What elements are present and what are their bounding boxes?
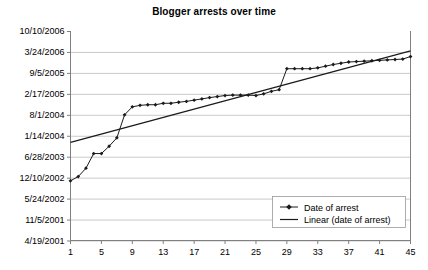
y-axis-tick-label: 10/10/2006 [19, 26, 64, 36]
data-point-marker [293, 67, 297, 71]
data-point-marker [169, 101, 173, 105]
data-point-marker [300, 67, 304, 71]
y-axis-tick-label: 2/17/2005 [24, 89, 64, 99]
data-point-marker [324, 64, 328, 68]
data-point-marker [270, 89, 274, 93]
data-point-marker [277, 88, 281, 92]
data-point-marker [409, 55, 413, 59]
x-axis-tick-label: 33 [313, 247, 323, 257]
x-axis-tick-label: 5 [99, 247, 104, 257]
series-markers-date-of-arrest [69, 55, 413, 183]
chart-container: Blogger arrests over time 10/10/20063/24… [0, 0, 428, 270]
data-point-marker [177, 100, 181, 104]
data-point-marker [215, 95, 219, 99]
data-point-marker [154, 103, 158, 107]
data-point-marker [393, 58, 397, 62]
data-point-marker [355, 60, 359, 64]
legend: Date of arrest Linear (date of arrest) [273, 197, 406, 228]
legend-label-linear-date-of-arrest: Linear (date of arrest) [304, 215, 391, 225]
y-axis-tick-label: 11/5/2001 [25, 215, 64, 225]
chart-plot-area: 10/10/20063/24/20069/5/20052/17/20058/1/… [0, 0, 428, 270]
data-point-marker [385, 58, 389, 62]
y-axis-tick-label: 4/19/2001 [24, 236, 64, 246]
x-axis-tick-label: 41 [375, 247, 385, 257]
y-axis-tick-label: 8/1/2004 [29, 110, 64, 120]
y-axis-labels: 10/10/20063/24/20069/5/20052/17/20058/1/… [19, 26, 64, 246]
y-axis-tick-label: 9/5/2005 [29, 68, 64, 78]
x-axis-tick-label: 17 [189, 247, 199, 257]
x-axis-tick-label: 13 [158, 247, 168, 257]
data-point-marker [339, 61, 343, 65]
series-line-date-of-arrest [71, 57, 411, 181]
x-axis-tick-label: 9 [130, 247, 135, 257]
y-axis-tick-label: 1/14/2004 [24, 131, 64, 141]
data-point-marker [138, 103, 142, 107]
data-point-marker [185, 99, 189, 103]
data-point-marker [316, 66, 320, 70]
data-point-marker [347, 60, 351, 64]
x-axis-tick-label: 25 [251, 247, 261, 257]
x-axis-tick-label: 45 [405, 247, 415, 257]
data-point-marker [401, 57, 405, 61]
y-axis-tick-label: 5/24/2002 [24, 194, 64, 204]
legend-label-date-of-arrest: Date of arrest [304, 203, 359, 213]
y-axis-tick-label: 3/24/2006 [24, 47, 64, 57]
x-axis-tick-label: 21 [220, 247, 230, 257]
x-axis-tick-label: 1 [68, 247, 73, 257]
data-point-marker [192, 98, 196, 102]
y-axis-tick-label: 6/28/2003 [24, 152, 64, 162]
data-point-marker [231, 93, 235, 97]
data-point-marker [262, 92, 266, 96]
x-axis-tick-label: 37 [344, 247, 354, 257]
data-point-marker [331, 63, 335, 67]
x-axis-labels: 159131721252933374145 [68, 247, 416, 257]
data-point-marker [146, 103, 150, 107]
y-axis-tickmarks [67, 32, 71, 242]
data-point-marker [208, 96, 212, 100]
data-point-marker [308, 67, 312, 71]
data-point-marker [161, 101, 165, 105]
y-axis-tick-label: 12/10/2002 [19, 173, 64, 183]
data-point-marker [92, 152, 96, 156]
data-point-marker [200, 97, 204, 101]
data-point-marker [285, 67, 289, 71]
x-axis-tick-label: 29 [282, 247, 292, 257]
data-point-marker [69, 179, 73, 183]
